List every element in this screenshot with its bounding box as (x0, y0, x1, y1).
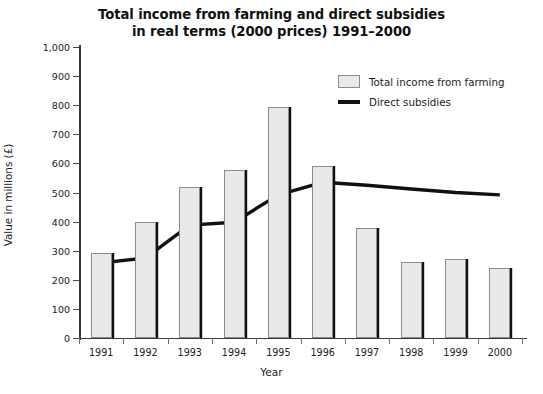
y-axis-tick-label: 1,000 (43, 42, 70, 53)
y-axis-tick-label: 500 (52, 187, 70, 198)
bar-1998 (401, 262, 422, 338)
y-axis-tick (73, 251, 79, 252)
y-axis-tick-label: 300 (52, 245, 70, 256)
chart-title: Total income from farming and direct sub… (0, 6, 543, 40)
y-axis-tick-label: 100 (52, 303, 70, 314)
y-axis-tick (73, 47, 79, 48)
y-axis-tick (73, 309, 79, 310)
y-axis-tick (73, 134, 79, 135)
x-axis-tick-label: 1992 (133, 347, 157, 358)
x-axis-tick (433, 338, 434, 344)
y-axis-tick-label: 400 (52, 216, 70, 227)
x-axis-tick-label: 1994 (222, 347, 246, 358)
y-axis-tick-label: 900 (52, 71, 70, 82)
x-axis-tick-label: 1996 (310, 347, 334, 358)
x-axis-tick-label: 1999 (443, 347, 467, 358)
bar-1993 (179, 187, 200, 338)
bar-1999 (445, 259, 466, 338)
y-axis-tick (73, 193, 79, 194)
chart-legend: Total income from farming Direct subsidi… (338, 73, 504, 113)
bar-1992 (135, 222, 156, 338)
y-axis-tick-label: 600 (52, 158, 70, 169)
x-axis-tick-label: 1991 (89, 347, 113, 358)
x-axis-tick (79, 338, 80, 344)
x-axis-tick-label: 1998 (399, 347, 423, 358)
direct-subsidies-polyline (101, 182, 500, 263)
x-axis-tick-label: 1997 (355, 347, 379, 358)
x-axis-tick (256, 338, 257, 344)
legend-line-swatch-icon (338, 100, 360, 104)
legend-label-direct-subsidies: Direct subsidies (369, 96, 451, 108)
bar-2000 (489, 268, 510, 338)
bar-1997 (356, 228, 377, 338)
x-axis-tick (389, 338, 390, 344)
legend-item-direct-subsidies: Direct subsidies (338, 93, 504, 110)
legend-label-total-income: Total income from farming (369, 76, 504, 88)
x-axis-tick (522, 338, 523, 344)
x-axis-tick-label: 1993 (178, 347, 202, 358)
x-axis-tick (123, 338, 124, 344)
bar-1991 (91, 253, 112, 338)
x-axis-tick (168, 338, 169, 344)
y-axis-tick-label: 800 (52, 100, 70, 111)
y-axis-tick (73, 222, 79, 223)
y-axis-title: Value in millions (£) (2, 144, 14, 247)
y-axis-tick (73, 105, 79, 106)
x-axis-title: Year (0, 366, 543, 378)
y-axis-tick-label: 200 (52, 274, 70, 285)
x-axis-tick (345, 338, 346, 344)
legend-item-total-income: Total income from farming (338, 73, 504, 90)
y-axis-tick (73, 163, 79, 164)
chart-title-line-2: in real terms (2000 prices) 1991–2000 (0, 23, 543, 40)
y-axis-tick-label: 700 (52, 129, 70, 140)
x-axis-tick (212, 338, 213, 344)
y-axis-tick (73, 280, 79, 281)
x-axis-tick-label: 2000 (488, 347, 512, 358)
chart-title-line-1: Total income from farming and direct sub… (98, 7, 445, 22)
chart-figure: Total income from farming and direct sub… (0, 0, 543, 394)
y-axis-tick-label: 0 (64, 333, 70, 344)
bar-1996 (312, 166, 333, 338)
bar-1995 (268, 107, 289, 338)
bar-1994 (224, 170, 245, 338)
x-axis-tick-label: 1995 (266, 347, 290, 358)
x-axis-tick (301, 338, 302, 344)
legend-bar-swatch-icon (338, 75, 360, 88)
y-axis-tick (73, 76, 79, 77)
x-axis-tick (478, 338, 479, 344)
